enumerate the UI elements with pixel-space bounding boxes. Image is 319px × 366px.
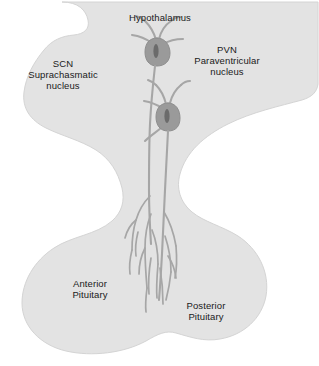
label-posterior-pituitary: Posterior Pituitary <box>156 300 256 322</box>
label-scn-line1: Suprachasmatic <box>8 69 118 80</box>
label-scn: SCN Suprachasmatic nucleus <box>8 58 118 91</box>
label-posterior-line1: Posterior <box>156 300 256 311</box>
label-posterior-line2: Pituitary <box>156 311 256 322</box>
label-scn-line2: nucleus <box>8 80 118 91</box>
label-hypothalamus-text: Hypothalamus <box>129 12 191 23</box>
label-pvn-line2: nucleus <box>168 66 286 77</box>
label-hypothalamus: Hypothalamus <box>95 12 225 23</box>
anatomical-diagram: Hypothalamus SCN Suprachasmatic nucleus … <box>0 0 319 366</box>
label-anterior-line2: Pituitary <box>42 289 138 300</box>
label-pvn-abbrev: PVN <box>168 44 286 55</box>
scn-soma-nucleus <box>153 44 158 58</box>
label-anterior-line1: Anterior <box>42 278 138 289</box>
label-pvn: PVN Paraventricular nucleus <box>168 44 286 77</box>
pvn-soma-nucleus <box>164 109 169 123</box>
label-scn-abbrev: SCN <box>8 58 118 69</box>
label-pvn-line1: Paraventricular <box>168 55 286 66</box>
label-anterior-pituitary: Anterior Pituitary <box>42 278 138 300</box>
